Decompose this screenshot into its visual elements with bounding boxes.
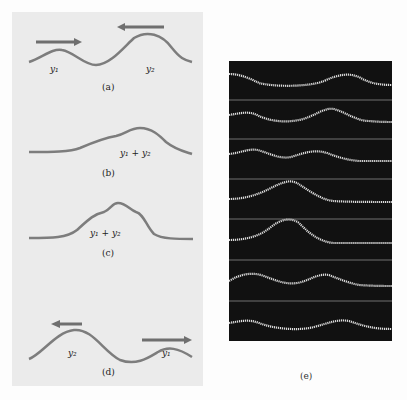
caption-d: (d): [102, 367, 115, 377]
label-y1-plus-y2: y₁ + y₂: [120, 148, 151, 158]
pulse-curves: [12, 12, 203, 386]
caption-e: (e): [300, 371, 312, 381]
label-y1: y₁: [162, 348, 171, 358]
caption-c: (c): [102, 248, 114, 258]
caption-a: (a): [102, 82, 114, 92]
caption-b: (b): [102, 168, 115, 178]
label-y2: y₂: [146, 64, 155, 74]
panel-b: [29, 128, 192, 154]
label-y1-plus-y2: y₁ + y₂: [90, 228, 121, 238]
oscilloscope-photo-sequence: [229, 61, 392, 341]
panel-a: [29, 23, 192, 65]
label-y2: y₂: [68, 348, 77, 358]
label-y1: y₁: [50, 64, 59, 74]
wave-superposition-diagram: y₁ y₂ (a) y₁ + y₂ (b) y₁ + y₂ (c) y₂ y₁ …: [12, 12, 203, 386]
trace-frames: [229, 61, 392, 341]
frame-separators: [229, 100, 392, 301]
traces: [229, 74, 392, 329]
